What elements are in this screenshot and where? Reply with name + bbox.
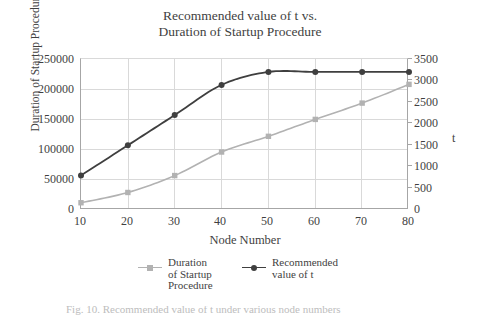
y-tick-label-150000: 150000 <box>12 113 74 125</box>
data-point <box>406 82 411 87</box>
data-point <box>359 100 364 105</box>
chart-title-line-1: Recommended value of t vs. <box>70 8 410 24</box>
y-tick-label-0: 0 <box>12 203 74 215</box>
y-tick-label-50000: 50000 <box>12 173 74 185</box>
chart-legend: Duration of Startup Procedure Recommende… <box>138 258 368 300</box>
y2-tick-label-1000: 1000 <box>414 160 466 172</box>
y2-tick-label-3500: 3500 <box>414 53 466 65</box>
figure-chart: Recommended value of t vs. Duration of S… <box>0 0 481 316</box>
y2-tick-label-2500: 2500 <box>414 96 466 108</box>
figure-caption-text: Fig. 10. Recommended value of t under va… <box>66 306 416 315</box>
data-point <box>172 112 178 118</box>
legend-marker-square-icon <box>138 264 162 271</box>
legend-marker-circle-icon <box>242 264 266 271</box>
data-point <box>219 149 224 154</box>
legend-label-line: value of t <box>272 269 338 281</box>
data-point <box>219 82 225 88</box>
legend-label-line: Recommended <box>272 257 338 269</box>
x-axis-title: Node Number <box>150 233 340 248</box>
data-point <box>172 173 177 178</box>
y-tick-label-250000: 250000 <box>12 53 74 65</box>
data-point <box>265 69 271 75</box>
series-markers-recommended-t <box>78 69 412 179</box>
data-point <box>312 69 318 75</box>
legend-label-recommended-t: Recommended value of t <box>272 257 338 280</box>
x-tick-label-70: 70 <box>341 215 381 227</box>
series-plot <box>81 59 409 210</box>
x-tick-label-40: 40 <box>200 215 240 227</box>
chart-title-line-2: Duration of Startup Procedure <box>70 24 410 40</box>
series-line-recommended-t <box>81 71 408 175</box>
data-point <box>406 69 412 75</box>
legend-label-duration: Duration of Startup Procedure <box>168 257 213 292</box>
y2-tick-label-3000: 3000 <box>414 74 466 86</box>
x-tick-label-20: 20 <box>107 215 147 227</box>
data-point <box>78 200 83 205</box>
data-point <box>125 190 130 195</box>
data-point <box>359 69 365 75</box>
data-point <box>78 172 84 178</box>
x-tick-label-60: 60 <box>294 215 334 227</box>
x-tick-label-10: 10 <box>60 215 100 227</box>
y2-tick-label-2000: 2000 <box>414 117 466 129</box>
plot-area <box>80 58 408 209</box>
chart-title: Recommended value of t vs. Duration of S… <box>70 8 410 40</box>
x-tick-label-50: 50 <box>247 215 287 227</box>
y2-tick-label-0: 0 <box>414 203 466 215</box>
y2-tick-label-1500: 1500 <box>414 139 466 151</box>
legend-label-line: Duration <box>168 257 213 269</box>
y2-tick-label-500: 500 <box>414 182 466 194</box>
x-tick-label-80: 80 <box>388 215 428 227</box>
x-tick-label-30: 30 <box>154 215 194 227</box>
data-point <box>313 117 318 122</box>
y-tick-label-200000: 200000 <box>12 83 74 95</box>
y-tick-label-100000: 100000 <box>12 143 74 155</box>
data-point <box>266 134 271 139</box>
legend-label-line: Procedure <box>168 280 213 292</box>
figure-caption-partial: Fig. 10. Recommended value of t under va… <box>66 306 416 316</box>
data-point <box>125 142 131 148</box>
